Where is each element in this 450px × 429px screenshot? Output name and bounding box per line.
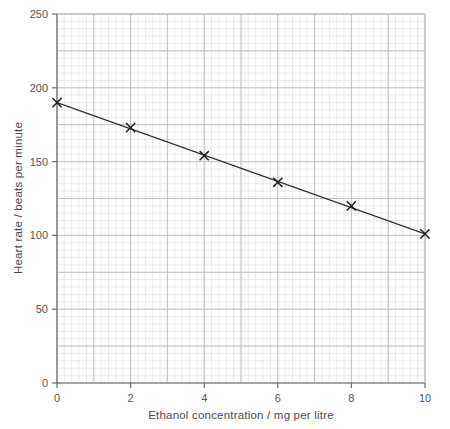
y-tick-label: 200 [30, 82, 48, 94]
heart-rate-vs-ethanol-line-chart: 050100150200250 0246810 Ethanol concentr… [0, 0, 450, 429]
y-tick-label: 100 [30, 229, 48, 241]
y-tick-label: 0 [42, 377, 48, 389]
chart-background [0, 0, 450, 429]
x-tick-label: 8 [348, 392, 354, 404]
x-tick-label: 6 [275, 392, 281, 404]
x-tick-label: 10 [419, 392, 431, 404]
x-tick-label: 0 [54, 392, 60, 404]
y-tick-label: 250 [30, 8, 48, 20]
x-tick-label: 2 [128, 392, 134, 404]
x-axis-title: Ethanol concentration / mg per litre [148, 409, 334, 421]
chart-container: 050100150200250 0246810 Ethanol concentr… [0, 0, 450, 429]
y-tick-label: 50 [36, 303, 48, 315]
x-tick-label: 4 [201, 392, 207, 404]
y-tick-label: 150 [30, 156, 48, 168]
y-axis-title: Heart rate / beats per minute [12, 122, 24, 274]
